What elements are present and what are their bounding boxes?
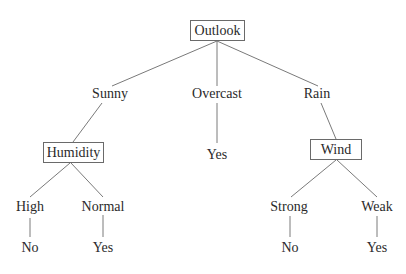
leaf-high-no: No: [21, 241, 38, 255]
branch-rain: Rain: [304, 87, 330, 101]
branch-sunny: Sunny: [92, 87, 128, 101]
edge-rain-wind: [321, 103, 336, 139]
edge-humidity-normal: [71, 163, 103, 197]
decision-tree-diagram: Outlook Sunny Overcast Rain Humidity Yes…: [0, 0, 406, 274]
node-humidity-label: Humidity: [47, 146, 101, 160]
edge-wind-weak: [337, 160, 377, 197]
leaf-overcast-yes: Yes: [207, 148, 227, 162]
edge-outlook-sunny: [112, 41, 217, 86]
node-outlook-label: Outlook: [195, 24, 241, 38]
branch-normal: Normal: [82, 200, 125, 214]
leaf-weak-yes: Yes: [367, 241, 387, 255]
branch-strong: Strong: [270, 200, 307, 214]
edge-sunny-humidity: [73, 103, 102, 142]
edge-wind-strong: [291, 160, 336, 197]
node-humidity: Humidity: [43, 142, 104, 163]
branch-weak: Weak: [361, 200, 393, 214]
edge-outlook-rain: [217, 41, 318, 86]
branch-high: High: [16, 200, 44, 214]
leaf-normal-yes: Yes: [93, 241, 113, 255]
branch-overcast: Overcast: [192, 87, 242, 101]
node-wind: Wind: [310, 139, 362, 160]
node-wind-label: Wind: [321, 143, 352, 157]
tree-edges: [0, 0, 406, 274]
node-outlook: Outlook: [190, 20, 245, 41]
edge-humidity-high: [30, 163, 70, 197]
leaf-strong-no: No: [281, 241, 298, 255]
